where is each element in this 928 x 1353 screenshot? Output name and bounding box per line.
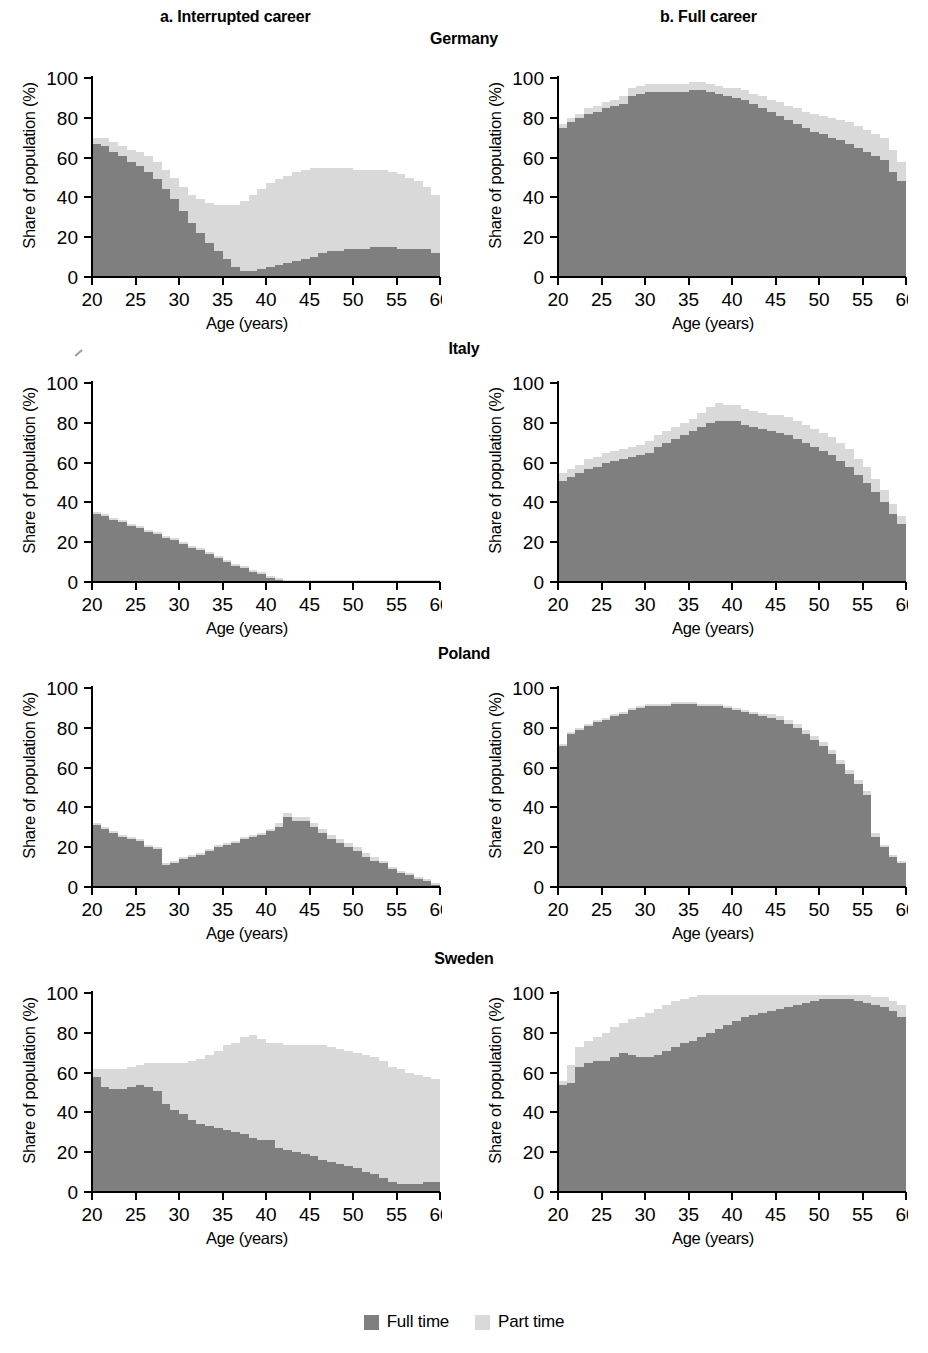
- chart-canvas: 020406080100202530354045505560: [468, 46, 908, 346]
- svg-text:40: 40: [57, 1102, 78, 1123]
- svg-text:45: 45: [299, 899, 320, 920]
- panel-germany-full-career: Share of population (%) Age (years) 0204…: [468, 46, 908, 346]
- svg-text:100: 100: [512, 983, 544, 1004]
- svg-text:20: 20: [81, 289, 102, 310]
- svg-text:20: 20: [57, 532, 78, 553]
- chart-canvas: 020406080100202530354045505560: [468, 351, 908, 651]
- svg-text:35: 35: [212, 1204, 233, 1225]
- svg-text:50: 50: [808, 899, 829, 920]
- svg-text:45: 45: [299, 594, 320, 615]
- svg-text:50: 50: [808, 289, 829, 310]
- svg-text:60: 60: [429, 899, 442, 920]
- svg-text:0: 0: [533, 267, 544, 288]
- svg-text:60: 60: [523, 453, 544, 474]
- svg-text:30: 30: [168, 899, 189, 920]
- svg-text:45: 45: [765, 1204, 786, 1225]
- svg-text:20: 20: [81, 899, 102, 920]
- svg-text:45: 45: [765, 899, 786, 920]
- svg-text:80: 80: [523, 1023, 544, 1044]
- panel-sweden-interrupted-career: Share of population (%) Age (years) 0204…: [2, 961, 442, 1261]
- svg-text:60: 60: [523, 148, 544, 169]
- panel-italy-interrupted-career: Share of population (%) Age (years) 0204…: [2, 351, 442, 651]
- svg-text:80: 80: [523, 108, 544, 129]
- svg-text:20: 20: [523, 1142, 544, 1163]
- svg-text:25: 25: [591, 1204, 612, 1225]
- svg-text:30: 30: [634, 289, 655, 310]
- svg-text:60: 60: [895, 899, 908, 920]
- svg-text:60: 60: [57, 148, 78, 169]
- chart-canvas: 020406080100202530354045505560: [2, 46, 442, 346]
- svg-text:40: 40: [523, 187, 544, 208]
- svg-text:30: 30: [634, 899, 655, 920]
- svg-text:40: 40: [721, 289, 742, 310]
- svg-text:20: 20: [547, 594, 568, 615]
- svg-text:40: 40: [523, 1102, 544, 1123]
- svg-text:60: 60: [57, 758, 78, 779]
- chart-canvas: 020406080100202530354045505560: [2, 961, 442, 1261]
- legend-item-full-time: Full time: [364, 1312, 449, 1332]
- legend-swatch-full-time-icon: [364, 1315, 379, 1330]
- svg-text:55: 55: [852, 594, 873, 615]
- svg-text:55: 55: [386, 594, 407, 615]
- svg-text:60: 60: [429, 1204, 442, 1225]
- chart-canvas: 020406080100202530354045505560: [468, 961, 908, 1261]
- svg-text:60: 60: [523, 1063, 544, 1084]
- svg-text:40: 40: [523, 492, 544, 513]
- svg-text:20: 20: [523, 532, 544, 553]
- legend-item-part-time: Part time: [475, 1312, 564, 1332]
- svg-text:40: 40: [255, 899, 276, 920]
- svg-text:40: 40: [255, 594, 276, 615]
- svg-text:55: 55: [386, 1204, 407, 1225]
- svg-text:20: 20: [547, 1204, 568, 1225]
- svg-text:40: 40: [721, 899, 742, 920]
- svg-text:45: 45: [299, 289, 320, 310]
- svg-text:100: 100: [46, 373, 78, 394]
- svg-text:80: 80: [57, 108, 78, 129]
- legend-label-full-time: Full time: [387, 1312, 449, 1332]
- svg-text:50: 50: [342, 899, 363, 920]
- svg-text:35: 35: [212, 899, 233, 920]
- svg-text:0: 0: [67, 267, 78, 288]
- panel-germany-interrupted-career: Share of population (%) Age (years) 0204…: [2, 46, 442, 346]
- svg-text:25: 25: [125, 594, 146, 615]
- svg-text:60: 60: [895, 594, 908, 615]
- svg-text:30: 30: [634, 594, 655, 615]
- svg-text:100: 100: [46, 678, 78, 699]
- panel-poland-full-career: Share of population (%) Age (years) 0204…: [468, 656, 908, 956]
- svg-text:80: 80: [57, 413, 78, 434]
- svg-text:40: 40: [57, 187, 78, 208]
- svg-text:40: 40: [255, 289, 276, 310]
- svg-text:35: 35: [678, 899, 699, 920]
- svg-text:60: 60: [429, 289, 442, 310]
- svg-text:100: 100: [512, 68, 544, 89]
- svg-text:0: 0: [67, 1182, 78, 1203]
- svg-text:20: 20: [523, 837, 544, 858]
- svg-text:20: 20: [57, 1142, 78, 1163]
- svg-text:40: 40: [57, 797, 78, 818]
- svg-text:0: 0: [67, 572, 78, 593]
- svg-text:35: 35: [678, 594, 699, 615]
- svg-text:40: 40: [721, 594, 742, 615]
- svg-text:50: 50: [342, 1204, 363, 1225]
- svg-text:50: 50: [808, 594, 829, 615]
- svg-text:35: 35: [212, 289, 233, 310]
- svg-text:30: 30: [168, 594, 189, 615]
- svg-text:0: 0: [67, 877, 78, 898]
- svg-text:60: 60: [523, 758, 544, 779]
- svg-text:0: 0: [533, 877, 544, 898]
- svg-text:20: 20: [57, 837, 78, 858]
- svg-text:60: 60: [57, 1063, 78, 1084]
- svg-text:20: 20: [547, 289, 568, 310]
- svg-text:30: 30: [168, 289, 189, 310]
- svg-text:30: 30: [168, 1204, 189, 1225]
- svg-text:20: 20: [523, 227, 544, 248]
- svg-text:35: 35: [212, 594, 233, 615]
- chart-canvas: 020406080100202530354045505560: [468, 656, 908, 956]
- svg-text:100: 100: [46, 68, 78, 89]
- chart-canvas: 020406080100202530354045505560: [2, 351, 442, 651]
- svg-text:25: 25: [125, 899, 146, 920]
- svg-text:60: 60: [895, 289, 908, 310]
- svg-text:55: 55: [852, 899, 873, 920]
- svg-text:80: 80: [523, 718, 544, 739]
- svg-text:20: 20: [57, 227, 78, 248]
